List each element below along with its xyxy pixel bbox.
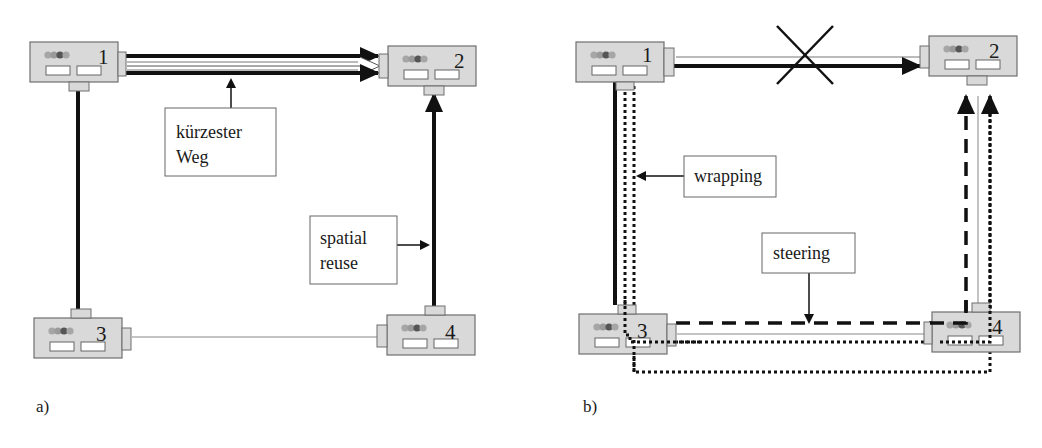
annotation-text: kürzester	[176, 122, 242, 142]
node-label: 4	[992, 315, 1003, 339]
node-2: 2	[379, 46, 476, 95]
annotation-text: wrapping	[694, 166, 762, 186]
node-4: 4	[377, 306, 475, 355]
node-label: 4	[445, 320, 456, 344]
annotation-wrapping: wrapping	[684, 156, 776, 197]
node-3: 3	[579, 305, 676, 354]
panel-b: 1 2 3 4 wrapping	[576, 26, 1020, 416]
panel-a: 1 2 3 4 kürzester Weg	[30, 42, 476, 416]
node-2: 2	[920, 36, 1017, 85]
node-1: 1	[30, 42, 126, 91]
node-label: 3	[96, 322, 107, 346]
node-4: 4	[924, 303, 1020, 352]
annotation-text: steering	[773, 243, 830, 263]
node-label: 1	[98, 45, 109, 69]
path-wrapping-inner	[625, 86, 990, 342]
node-3: 3	[34, 309, 131, 358]
node-label: 2	[454, 49, 465, 73]
node-label: 1	[642, 43, 653, 67]
annotation-text: spatial	[320, 228, 367, 248]
annotation-text: reuse	[320, 253, 358, 273]
panel-label-b: b)	[583, 397, 597, 416]
node-label: 2	[989, 39, 1000, 63]
ring-network-diagram: 1 2 3 4 kürzester Weg	[0, 0, 1042, 448]
panel-label-a: a)	[36, 397, 49, 416]
annotation-text: Weg	[176, 147, 209, 167]
annotation-shortest-path: kürzester Weg	[165, 108, 276, 176]
failure-x-icon	[777, 26, 833, 84]
node-label: 3	[637, 319, 648, 343]
path-steering	[676, 96, 966, 323]
annotation-spatial-reuse: spatial reuse	[310, 216, 397, 284]
annotation-steering: steering	[762, 233, 855, 273]
node-1: 1	[576, 42, 674, 90]
